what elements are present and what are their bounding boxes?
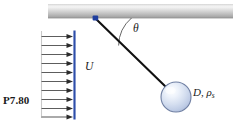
- pivot-point: [93, 15, 99, 20]
- sphere-properties-label: D, ρs: [193, 86, 215, 100]
- string: [96, 19, 168, 89]
- figure-canvas: [0, 0, 235, 122]
- problem-number-label: P7.80: [3, 94, 29, 106]
- velocity-profile: [42, 31, 76, 120]
- physics-figure: P7.80 U θ D, ρs: [0, 0, 235, 122]
- velocity-arrow: [42, 37, 70, 118]
- velocity-arrow-head: [67, 34, 74, 120]
- velocity-label: U: [85, 60, 93, 72]
- angle-label: θ: [133, 22, 139, 34]
- ceiling-bar: [48, 5, 233, 19]
- sphere-label-main: D, ρ: [193, 86, 212, 98]
- sphere: [161, 82, 191, 112]
- sphere-label-subscript: s: [212, 91, 215, 100]
- boundary-line: [73, 31, 76, 120]
